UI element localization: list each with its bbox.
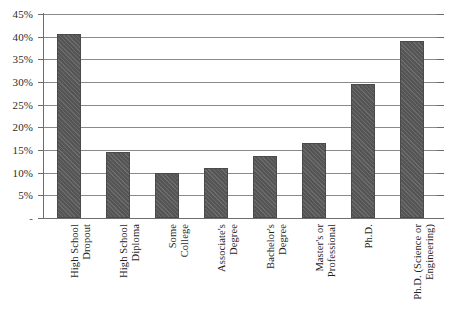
x-axis-label-slot: High SchoolDiploma <box>93 222 142 326</box>
y-axis-tick-label: 20% <box>13 121 33 133</box>
x-axis-tick-label: SomeCollege <box>167 224 191 257</box>
right-edge-tick-mark <box>437 218 444 219</box>
x-axis-label-slot: Ph.D. (Science orEngineering) <box>388 222 437 326</box>
y-axis-tick-label: - <box>29 212 33 224</box>
y-axis-tick-mark <box>38 173 44 174</box>
bar <box>253 156 277 218</box>
y-axis-tick-mark <box>38 14 44 15</box>
right-edge-tick-mark <box>437 82 444 83</box>
bar <box>302 143 326 218</box>
y-axis-tick-mark <box>38 150 44 151</box>
bar <box>57 34 81 218</box>
axis-baseline <box>44 218 437 219</box>
x-axis-tick-label: Ph.D. <box>363 224 375 248</box>
x-axis-label-slot: Master's orProfessional <box>290 222 339 326</box>
x-axis-tick-label: High SchoolDiploma <box>118 224 142 278</box>
right-edge-tick-mark <box>437 105 444 106</box>
x-axis-tick-label: Bachelor'sDegree <box>265 224 289 269</box>
bar <box>400 41 424 218</box>
x-axis: High SchoolDropoutHigh SchoolDiplomaSome… <box>44 222 437 326</box>
right-edge-tick-mark <box>437 59 444 60</box>
y-axis-tick-label: 5% <box>18 189 33 201</box>
y-axis-tick-mark <box>38 37 44 38</box>
y-axis-tick-mark <box>38 105 44 106</box>
y-axis-tick-label: 40% <box>13 31 33 43</box>
y-axis-tick-mark <box>38 59 44 60</box>
x-axis-label-slot: Associate'sDegree <box>191 222 240 326</box>
y-axis-tick-mark <box>38 195 44 196</box>
right-edge-tick-mark <box>437 14 444 15</box>
x-axis-tick-label: High SchoolDropout <box>69 224 93 278</box>
x-axis-label-slot: Ph.D. <box>339 222 388 326</box>
right-edge-tick-mark <box>437 37 444 38</box>
x-axis-tick-label: Ph.D. (Science orEngineering) <box>412 224 436 300</box>
right-edge-tick-mark <box>437 150 444 151</box>
y-axis-tick-mark <box>38 127 44 128</box>
y-axis-tick-label: 30% <box>13 76 33 88</box>
y-axis-tick-label: 35% <box>13 53 33 65</box>
plot-area <box>44 14 437 218</box>
x-axis-label-slot: High SchoolDropout <box>44 222 93 326</box>
bar-chart: -5%10%15%20%25%30%35%40%45% High SchoolD… <box>0 0 454 328</box>
y-axis-tick-label: 10% <box>13 167 33 179</box>
x-axis-tick-label: Master's orProfessional <box>314 224 338 277</box>
y-axis-tick-label: 25% <box>13 99 33 111</box>
y-axis: -5%10%15%20%25%30%35%40%45% <box>0 0 38 328</box>
right-edge-tick-mark <box>437 173 444 174</box>
bars-layer <box>44 14 437 218</box>
y-axis-tick-mark <box>38 218 44 219</box>
right-edge-tick-mark <box>437 127 444 128</box>
y-axis-tick-mark <box>38 82 44 83</box>
bar <box>106 152 130 218</box>
x-axis-label-slot: Bachelor'sDegree <box>241 222 290 326</box>
y-axis-tick-label: 15% <box>13 144 33 156</box>
bar <box>351 84 375 218</box>
bar <box>155 173 179 218</box>
bar <box>204 168 228 218</box>
y-axis-tick-label: 45% <box>13 8 33 20</box>
right-edge-tick-mark <box>437 195 444 196</box>
x-axis-label-slot: SomeCollege <box>142 222 191 326</box>
x-axis-tick-label: Associate'sDegree <box>216 224 240 272</box>
